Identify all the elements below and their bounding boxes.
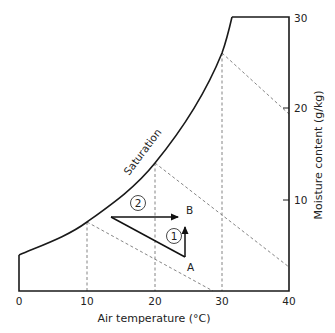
x-tick-40: 40 bbox=[282, 295, 295, 307]
process-1-label: 1 bbox=[171, 230, 178, 242]
saturation-label: Saturation bbox=[121, 126, 164, 177]
x-tick-20: 20 bbox=[148, 295, 161, 307]
point-a-label: A bbox=[187, 261, 195, 273]
wet-bulb-line-30c bbox=[222, 53, 289, 114]
saturation-curve bbox=[19, 17, 232, 255]
x-tick-30: 30 bbox=[215, 295, 228, 307]
y-axis-title: Moisture content (g/kg) bbox=[312, 90, 325, 219]
chart-frame bbox=[19, 17, 289, 291]
y-tick-20: 20 bbox=[294, 102, 307, 114]
point-b-label: B bbox=[186, 204, 193, 216]
x-tick-0: 0 bbox=[16, 295, 23, 307]
y-tick-10: 10 bbox=[294, 194, 307, 206]
process-2-label: 2 bbox=[135, 197, 142, 209]
psychrometric-chart: 2 1 B A Saturation 0 10 20 30 40 Air tem… bbox=[0, 0, 335, 333]
wet-bulb-line-10c bbox=[87, 222, 213, 291]
x-tick-10: 10 bbox=[80, 295, 93, 307]
y-tick-30: 30 bbox=[294, 12, 307, 24]
x-axis-title: Air temperature (°C) bbox=[97, 312, 210, 325]
